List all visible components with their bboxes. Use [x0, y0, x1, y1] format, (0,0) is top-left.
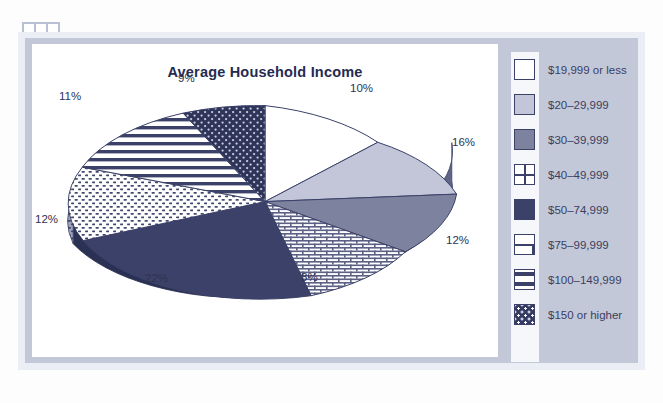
legend-item-19999-or-less[interactable]: $19,999 or less: [505, 52, 655, 87]
legend-item-75-99999[interactable]: $75–99,999: [505, 227, 655, 262]
chart-legend: $19,999 or less $20–29,999 $30–39,999 $4…: [505, 52, 655, 362]
pie-label-16: 16%: [452, 136, 475, 148]
legend-label: $30–39,999: [548, 134, 609, 146]
legend-swatch-corner-box-icon: [514, 234, 535, 255]
legend-label: $40–49,999: [548, 169, 609, 181]
legend-item-150-or-higher[interactable]: $150 or higher: [505, 297, 655, 332]
legend-label: $50–74,999: [548, 204, 609, 216]
legend-item-50-74999[interactable]: $50–74,999: [505, 192, 655, 227]
legend-swatch-dotted-navy-icon: [514, 304, 535, 325]
legend-swatch-light-gray-icon: [514, 94, 535, 115]
legend-item-100-149999[interactable]: $100–149,999: [505, 262, 655, 297]
chart-plot-area: Average Household Income: [32, 44, 498, 357]
chart-title: Average Household Income: [32, 64, 498, 80]
legend-swatch-cross-hatch-icon: [514, 164, 535, 185]
pie-chart: 10% 16% 12% 8% 22% 12% 11% 9%: [32, 86, 498, 346]
pie-label-22: 22%: [145, 272, 168, 284]
pie-label-8: 8%: [301, 271, 318, 283]
pie-label-10: 10%: [350, 82, 373, 94]
legend-item-30-39999[interactable]: $30–39,999: [505, 122, 655, 157]
pie-label-11: 11%: [59, 90, 81, 102]
screenshot-root: Average Household Income: [0, 0, 663, 403]
legend-item-20-29999[interactable]: $20–29,999: [505, 87, 655, 122]
pie-top-faces: [68, 106, 456, 300]
legend-label: $75–99,999: [548, 239, 609, 251]
legend-label: $20–29,999: [548, 99, 609, 111]
pie-label-12-right: 12%: [446, 234, 469, 246]
legend-swatch-navy-icon: [514, 199, 535, 220]
pie-label-12-left: 12%: [35, 213, 58, 225]
legend-label: $100–149,999: [548, 274, 622, 286]
legend-label: $150 or higher: [548, 309, 622, 321]
legend-label: $19,999 or less: [548, 64, 627, 76]
legend-swatch-white-icon: [514, 59, 535, 80]
pie-svg: [32, 86, 498, 346]
legend-item-40-49999[interactable]: $40–49,999: [505, 157, 655, 192]
legend-swatch-horizontal-bars-icon: [514, 269, 535, 290]
legend-swatch-medium-gray-icon: [514, 129, 535, 150]
pie-label-9: 9%: [178, 72, 195, 84]
